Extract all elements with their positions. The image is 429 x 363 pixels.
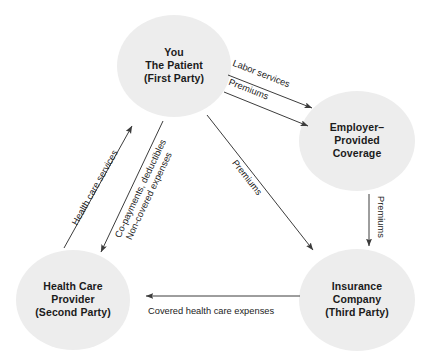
node-insurer — [299, 249, 415, 351]
edge-label-covered-expenses: Covered health care expenses — [148, 306, 274, 317]
edge-premiums-to-insurer — [207, 115, 313, 250]
edge-label-premiums-employer-to-insurer: Premiums — [375, 196, 386, 238]
diagram-canvas: You The Patient (First Party) Employer– … — [0, 0, 429, 363]
node-patient — [117, 15, 231, 117]
node-provider — [16, 250, 130, 350]
node-employer — [299, 91, 415, 191]
